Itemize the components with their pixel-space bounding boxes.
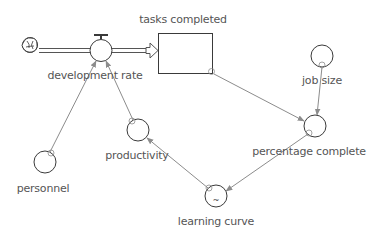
connector-tasks-to-percentage[interactable] — [214, 74, 304, 121]
flow-arrowhead-icon — [146, 43, 158, 58]
diagram-canvas: ~ — [0, 0, 379, 233]
label-percentage-complete: percentage complete — [252, 146, 366, 158]
cloud-icon[interactable] — [22, 38, 38, 53]
label-productivity: productivity — [105, 150, 168, 162]
label-learning-curve: learning curve — [178, 216, 254, 228]
converter-productivity[interactable] — [127, 119, 149, 141]
stock-tasks-completed[interactable] — [159, 34, 213, 74]
converter-personnel[interactable] — [34, 151, 56, 173]
connector-learning-to-productivity[interactable] — [147, 138, 208, 188]
converter-percentage-complete[interactable] — [304, 115, 326, 137]
label-tasks-completed: tasks completed — [139, 14, 227, 26]
label-job-size: job size — [302, 75, 342, 87]
label-personnel: personnel — [17, 183, 70, 195]
converter-job-size[interactable] — [311, 45, 333, 67]
label-development-rate: development rate — [47, 70, 142, 82]
flow-valve[interactable] — [90, 35, 112, 62]
connector-percentage-to-learning[interactable] — [226, 134, 308, 191]
graphical-function-icon: ~ — [213, 196, 220, 205]
